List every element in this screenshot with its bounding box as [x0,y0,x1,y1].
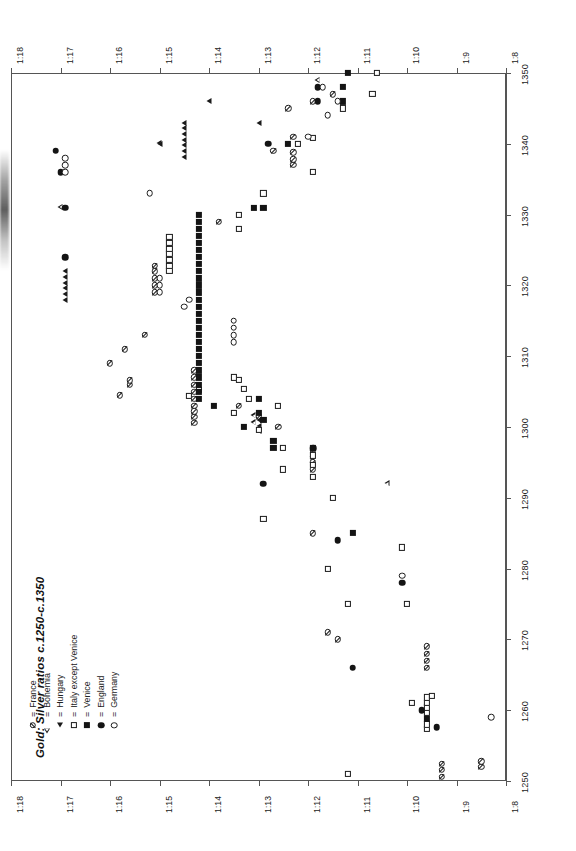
data-point-italy [275,403,281,409]
ratio-tick [160,781,161,786]
legend-equals-sign: = [82,712,92,717]
data-point-venice [196,374,202,380]
year-tick-label: 1260 [520,701,530,722]
data-point-italy [409,700,415,706]
data-point-germany [399,572,406,579]
ratio-tick-label: 1:15 [164,796,174,813]
data-point-venice [345,70,351,76]
legend-equals-sign: = [42,712,52,717]
data-point-hungary [182,120,187,126]
data-point-hungary [63,285,68,291]
ratio-tick [457,68,458,73]
data-point-venice [196,268,202,274]
data-point-venice [196,389,202,395]
year-tick-label: 1330 [520,206,530,227]
data-point-bohemia [390,481,395,487]
data-point-italy [325,566,331,572]
open-triangle-glyph [44,723,50,728]
data-point-venice [196,304,202,310]
data-point-italy [231,410,237,416]
ratio-tick [358,68,359,73]
data-point-england [265,141,272,148]
year-tick-label: 1280 [520,560,530,581]
ratio-tick [11,68,12,73]
ratio-tick [11,781,12,786]
data-point-venice [196,381,202,387]
data-point-italy [345,771,351,777]
data-point-italy [236,226,242,232]
data-point-bohemia [320,77,325,83]
data-point-venice [196,396,202,402]
data-point-venice [196,275,202,281]
data-point-italy [166,257,172,263]
data-point-hungary [63,291,68,297]
year-tick [506,710,511,711]
legend-entry-venice: =Venice [82,681,92,730]
data-point-england [419,707,426,714]
ratio-tick [407,68,408,73]
data-point-england [62,204,69,211]
data-point-hungary [63,268,68,274]
data-point-england [52,148,59,155]
legend-label-france: France [28,680,38,707]
year-tick-label: 1270 [520,631,530,652]
data-point-italy [260,190,266,196]
filled-circle-glyph [97,722,104,729]
ratio-tick [407,781,408,786]
legend-equals-sign: = [55,712,65,717]
data-point-venice [260,204,266,210]
data-point-italy [280,445,286,451]
legend-entry-germany: =Germany [109,672,119,730]
data-point-italy [424,700,430,706]
data-point-hungary [182,142,187,148]
data-point-venice [196,261,202,267]
data-point-italy [246,396,252,402]
data-point-england [310,445,317,452]
data-point-italy [231,374,237,380]
data-point-venice [196,254,202,260]
legend-entry-hungary: =Hungary [55,675,65,730]
data-point-venice [285,141,291,147]
data-point-germany [146,190,153,197]
year-tick-label: 1290 [520,489,530,510]
legend: Gold: Silver ratios c.1250-c.1350 =Franc… [26,548,146,763]
ratio-tick-label: 1:13 [263,796,273,813]
ratio-tick-label: 1:16 [114,796,124,813]
data-point-hungary [63,297,68,303]
scan-edge-artifact [0,150,9,270]
legend-label-italy: Italy except Venice [69,635,79,708]
data-point-italy [166,262,172,268]
data-point-italy [166,268,172,274]
legend-label-venice: Venice [82,681,92,707]
data-point-germany [156,275,163,282]
data-point-venice [270,445,276,451]
data-point-italy [236,212,242,218]
data-point-germany [62,162,69,169]
data-point-italy [399,544,405,550]
ratio-tick-label: 1:10 [411,47,421,64]
year-tick-label: 1310 [520,347,530,368]
data-point-venice [260,417,266,423]
legend-label-germany: Germany [109,672,119,708]
data-point-venice [196,282,202,288]
data-point-hungary [63,274,68,280]
data-point-germany [156,282,163,289]
data-point-venice [196,233,202,239]
year-tick [506,215,511,216]
legend-equals-sign: = [96,712,106,717]
data-point-england [433,724,440,731]
year-tick [506,498,511,499]
ratio-tick [110,68,111,73]
data-point-germany [156,289,163,296]
ratio-tick-label: 1:18 [15,47,25,64]
year-tick [506,781,511,782]
year-tick-label: 1350 [520,64,530,85]
legend-equals-sign: = [28,712,38,717]
data-point-germany [181,303,188,310]
legend-entry-england: =England [96,676,106,730]
legend-label-bohemia: Bohemia [42,673,52,708]
open-square-glyph [70,722,76,728]
ratio-tick-label: 1:8 [510,801,520,813]
ratio-tick [160,68,161,73]
data-point-hungary [182,148,187,154]
